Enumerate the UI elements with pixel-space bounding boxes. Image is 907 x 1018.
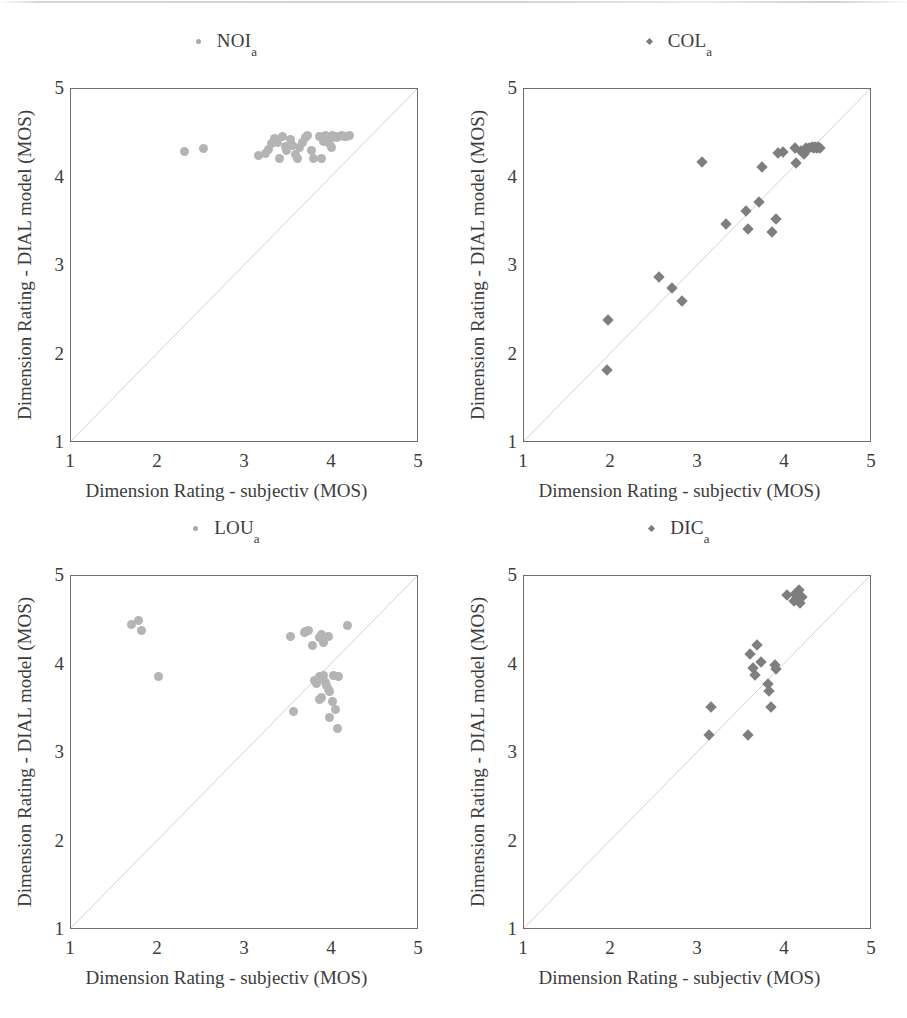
scatter-panel-noi: NOIa5432112345Dimension Rating - subject… <box>0 18 453 518</box>
data-point <box>327 143 336 152</box>
y-tick-label: 5 <box>42 564 64 586</box>
panel-title-text: LOU <box>214 517 254 538</box>
y-axis-ticks: 54321 <box>491 575 517 929</box>
scatter-panel-lou: LOUa5432112345Dimension Rating - subject… <box>0 505 453 1005</box>
y-tick-label: 4 <box>42 166 64 188</box>
x-tick-label: 5 <box>403 450 433 472</box>
x-tick-label: 1 <box>508 937 538 959</box>
y-axis-ticks: 54321 <box>38 575 64 929</box>
y-axis-ticks: 54321 <box>38 88 64 442</box>
data-point <box>154 672 163 681</box>
x-tick-label: 5 <box>403 937 433 959</box>
panel-title-subscript: a <box>251 44 257 59</box>
x-tick-label: 4 <box>769 937 799 959</box>
x-tick-label: 3 <box>682 937 712 959</box>
data-point <box>286 632 295 641</box>
scatter-panel-dic: DICa5432112345Dimension Rating - subject… <box>453 505 906 1005</box>
x-axis-ticks: 12345 <box>523 450 871 476</box>
y-tick-label: 5 <box>495 564 517 586</box>
y-tick-label: 2 <box>42 343 64 365</box>
data-point <box>308 641 317 650</box>
panel-title-lou: LOUa <box>0 517 453 543</box>
x-tick-label: 1 <box>55 450 85 472</box>
y-tick-label: 3 <box>42 254 64 276</box>
x-tick-label: 4 <box>316 450 346 472</box>
x-tick-label: 5 <box>856 450 886 472</box>
diamond-marker-icon <box>648 525 655 532</box>
scatter-panel-col: COLa5432112345Dimension Rating - subject… <box>453 18 906 518</box>
y-axis-ticks: 54321 <box>491 88 517 442</box>
scatter-plot-grid: NOIa5432112345Dimension Rating - subject… <box>0 0 907 1018</box>
x-tick-label: 2 <box>142 450 172 472</box>
diamond-marker-icon <box>646 38 653 45</box>
x-axis-label: Dimension Rating - subjectiv (MOS) <box>0 480 453 502</box>
y-tick-label: 5 <box>42 77 64 99</box>
panel-title-subscript: a <box>704 531 710 546</box>
x-tick-label: 5 <box>856 937 886 959</box>
identity-diagonal-line <box>71 89 417 441</box>
x-tick-label: 3 <box>229 450 259 472</box>
y-tick-label: 2 <box>495 830 517 852</box>
panel-title-text: COL <box>668 30 707 51</box>
x-tick-label: 3 <box>682 450 712 472</box>
circle-marker-icon <box>193 526 198 531</box>
plot-area <box>523 88 871 442</box>
y-tick-label: 5 <box>495 77 517 99</box>
plot-area <box>523 575 871 929</box>
y-axis-label: Dimension Rating - DIAL model (MOS) <box>467 88 493 442</box>
x-axis-ticks: 12345 <box>523 937 871 963</box>
x-axis-label: Dimension Rating - subjectiv (MOS) <box>453 480 906 502</box>
x-tick-label: 1 <box>508 450 538 472</box>
y-tick-label: 3 <box>42 741 64 763</box>
y-axis-label: Dimension Rating - DIAL model (MOS) <box>467 575 493 929</box>
y-tick-label: 3 <box>495 741 517 763</box>
panel-title-noi: NOIa <box>0 30 453 56</box>
y-axis-label: Dimension Rating - DIAL model (MOS) <box>14 88 40 442</box>
x-axis-ticks: 12345 <box>70 937 418 963</box>
data-point <box>310 676 319 685</box>
y-tick-label: 3 <box>495 254 517 276</box>
x-axis-label: Dimension Rating - subjectiv (MOS) <box>453 967 906 989</box>
panel-title-subscript: a <box>706 44 712 59</box>
data-point <box>325 713 334 722</box>
x-tick-label: 4 <box>769 450 799 472</box>
x-tick-label: 3 <box>229 937 259 959</box>
x-tick-label: 2 <box>595 450 625 472</box>
y-tick-label: 4 <box>495 653 517 675</box>
x-tick-label: 2 <box>142 937 172 959</box>
panel-title-text: NOI <box>217 30 251 51</box>
data-point <box>275 154 284 163</box>
circle-marker-icon <box>196 39 201 44</box>
panel-title-col: COLa <box>453 30 906 56</box>
plot-area <box>70 575 418 929</box>
panel-title-dic: DICa <box>453 517 906 543</box>
data-point <box>317 693 326 702</box>
x-axis-label: Dimension Rating - subjectiv (MOS) <box>0 967 453 989</box>
data-point <box>324 632 333 641</box>
identity-diagonal-line <box>71 576 417 928</box>
y-tick-label: 4 <box>42 653 64 675</box>
panel-title-text: DIC <box>670 517 703 538</box>
data-point <box>325 687 334 696</box>
x-tick-label: 1 <box>55 937 85 959</box>
y-tick-label: 4 <box>495 166 517 188</box>
panel-title-subscript: a <box>254 531 260 546</box>
y-tick-label: 2 <box>42 830 64 852</box>
x-axis-ticks: 12345 <box>70 450 418 476</box>
figure-page: NOIa5432112345Dimension Rating - subject… <box>0 0 907 1018</box>
y-axis-label: Dimension Rating - DIAL model (MOS) <box>14 575 40 929</box>
y-tick-label: 2 <box>495 343 517 365</box>
data-point <box>199 144 208 153</box>
identity-diagonal-line <box>524 576 870 928</box>
data-point <box>333 724 342 733</box>
x-tick-label: 2 <box>595 937 625 959</box>
x-tick-label: 4 <box>316 937 346 959</box>
plot-area <box>70 88 418 442</box>
